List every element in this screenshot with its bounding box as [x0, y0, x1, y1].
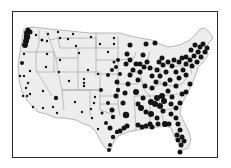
map-dot [47, 33, 49, 35]
map-dot [157, 60, 162, 65]
map-dot [68, 80, 70, 82]
map-dot [166, 89, 171, 94]
map-dot [58, 71, 60, 73]
map-dot [113, 61, 116, 64]
map-dot [163, 82, 168, 87]
map-dot [160, 56, 165, 61]
map-dot [59, 37, 61, 39]
map-dot [114, 65, 118, 69]
map-dot [176, 122, 181, 127]
map-dot [158, 74, 163, 79]
map-dot [143, 84, 148, 89]
map-dot [111, 135, 115, 139]
map-dot [175, 133, 180, 138]
map-dot [83, 85, 85, 87]
map-dot [101, 112, 104, 115]
map-dot [113, 43, 115, 45]
map-dot [145, 60, 150, 65]
map-dot [196, 50, 201, 55]
map-dot [184, 90, 189, 95]
map-dot [110, 108, 115, 113]
map-dot [83, 82, 85, 84]
map-dot [144, 110, 149, 115]
map-dot [108, 143, 112, 147]
map-dot [155, 68, 160, 73]
map-dot [134, 62, 139, 67]
us-map [0, 0, 231, 168]
map-dot [178, 128, 183, 133]
map-dot [136, 78, 141, 83]
map-dot [25, 87, 27, 89]
map-dot [178, 101, 183, 106]
map-dot [107, 148, 111, 152]
map-dot [188, 58, 193, 63]
map-dot [75, 45, 77, 47]
map-dot [46, 53, 48, 55]
map-dot [131, 68, 136, 73]
map-dot [128, 58, 133, 63]
map-dot [115, 80, 120, 85]
map-dot [144, 42, 149, 47]
map-dot [169, 102, 174, 107]
map-dot [176, 138, 181, 143]
map-dot [205, 46, 210, 51]
map-dot [74, 101, 76, 103]
map-dot [90, 36, 92, 38]
map-dot [45, 66, 47, 68]
map-dot [42, 90, 44, 92]
map-dot [148, 111, 154, 117]
map-dot [81, 111, 83, 113]
map-dot [91, 117, 93, 119]
map-dot [27, 82, 29, 84]
map-dot [174, 116, 179, 121]
map-dot [110, 68, 114, 72]
map-dot [46, 40, 48, 42]
map-dot [104, 121, 108, 125]
map-dot [189, 48, 194, 53]
map-dot [78, 52, 80, 54]
map-dot [199, 55, 204, 60]
map-dot [148, 66, 153, 71]
map-dot [42, 107, 44, 109]
map-dot [123, 112, 129, 118]
map-dot [178, 150, 183, 155]
map-dot [150, 125, 155, 130]
map-dot [155, 116, 160, 121]
map-dot [179, 143, 184, 148]
map-dot [32, 106, 34, 108]
map-dot [169, 112, 174, 117]
map-dot [97, 128, 99, 130]
map-dot [177, 60, 182, 65]
map-dot [195, 60, 200, 65]
map-dot [59, 59, 61, 61]
map-dot [107, 51, 109, 53]
map-dot [123, 91, 128, 96]
map-dot [19, 75, 21, 77]
map-dot [72, 33, 74, 35]
map-dot [164, 70, 169, 75]
map-dot [56, 112, 58, 114]
map-dot [138, 70, 143, 75]
map-dot [23, 53, 25, 55]
map-dot [154, 80, 159, 85]
map-dot [161, 63, 166, 68]
map-dot [172, 58, 177, 63]
map-dot [142, 65, 147, 70]
map-dot [128, 73, 133, 78]
map-dot [87, 69, 89, 71]
map-dot [121, 101, 126, 106]
map-dot [114, 94, 119, 99]
map-dot [22, 42, 28, 48]
map-dot [99, 43, 101, 45]
map-dot [20, 61, 24, 65]
map-dot [150, 74, 155, 79]
map-dot [141, 96, 146, 101]
map-dot [41, 39, 44, 42]
map-dot [180, 56, 185, 61]
map-dot [113, 37, 115, 39]
map-dot [54, 96, 58, 100]
map-dot [93, 102, 95, 104]
map-dot [177, 76, 182, 81]
map-dot [22, 95, 24, 97]
map-dot [174, 70, 179, 75]
